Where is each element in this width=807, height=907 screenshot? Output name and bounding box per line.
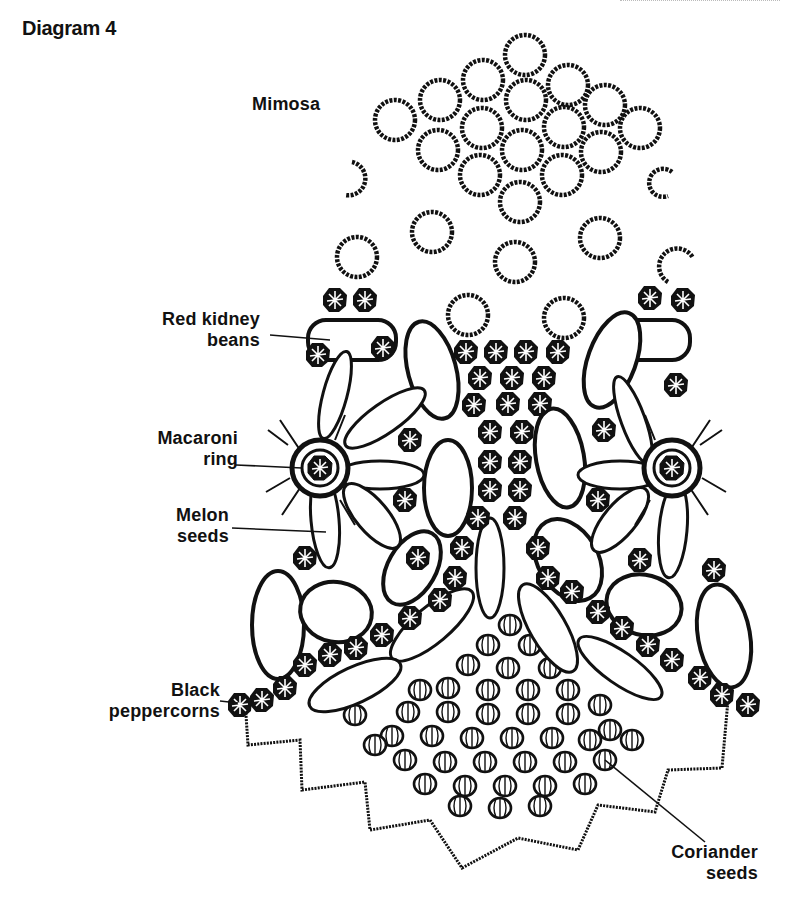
seed-mosaic-illustration: [0, 0, 807, 907]
